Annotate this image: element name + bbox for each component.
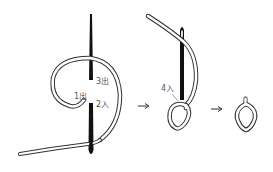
step3-illustration — [237, 97, 255, 130]
label-3-out: 3出 — [96, 78, 109, 86]
stitch-diagram — [0, 0, 273, 172]
arrow-2 — [211, 107, 222, 112]
label-4-in: 4入 — [161, 85, 174, 93]
label-1-out: 1出 — [74, 93, 87, 101]
arrow-1 — [138, 104, 149, 109]
needle-upper — [89, 14, 93, 80]
step2-illustration — [148, 16, 196, 128]
label-2-in: 2入 — [96, 101, 109, 109]
